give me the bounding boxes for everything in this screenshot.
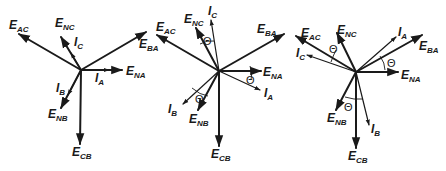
vector-i-b bbox=[68, 70, 81, 95]
label-e-nc: ENC bbox=[337, 23, 357, 39]
label-e-nc: ENC bbox=[55, 16, 75, 32]
label-e-na: ENA bbox=[126, 64, 146, 80]
theta-symbol-a: Θ bbox=[387, 57, 396, 69]
theta-arc-b bbox=[345, 97, 363, 99]
label-i-c: IC bbox=[74, 35, 83, 51]
label-i-a: IA bbox=[398, 25, 407, 41]
label-e-cb: ECB bbox=[211, 147, 231, 163]
label-e-ba: EBA bbox=[257, 22, 277, 38]
diagram-2: Θ Θ Θ EAC ENC IC EBA ENA IA IB ENB ECB bbox=[156, 4, 284, 163]
vector-e-ba bbox=[81, 32, 146, 70]
label-e-cb: ECB bbox=[348, 149, 368, 165]
theta-symbol-a: Θ bbox=[246, 74, 255, 86]
label-e-ac: EAC bbox=[156, 20, 176, 36]
vector-e-ba bbox=[219, 34, 284, 71]
diagram-1: EAC ENC IC EBA ENA IA IB ENB ECB bbox=[9, 16, 159, 161]
theta-symbol-c: Θ bbox=[203, 35, 212, 47]
label-i-c: IC bbox=[208, 4, 217, 20]
label-i-b: IB bbox=[56, 81, 65, 97]
label-e-nc: ENC bbox=[184, 12, 204, 28]
label-e-ba: EBA bbox=[139, 37, 159, 53]
label-e-nb: ENB bbox=[327, 111, 347, 127]
label-i-b: IB bbox=[168, 102, 177, 118]
diagram-3: Θ Θ Θ EAC ENC IC EBA ENA IA IB ENB ECB bbox=[296, 23, 439, 165]
label-e-ac: EAC bbox=[9, 18, 29, 34]
vector-e-cb bbox=[80, 70, 81, 144]
label-e-ac: EAC bbox=[301, 26, 321, 42]
label-e-na: ENA bbox=[263, 65, 283, 81]
theta-symbol-b: Θ bbox=[195, 93, 204, 105]
vector-e-ac bbox=[19, 34, 81, 70]
label-e-nb: ENB bbox=[189, 112, 209, 128]
theta-symbol-c: Θ bbox=[329, 43, 338, 55]
label-e-ba: EBA bbox=[419, 39, 439, 55]
label-e-nb: ENB bbox=[48, 107, 68, 123]
label-e-cb: ECB bbox=[72, 145, 92, 161]
phasor-diagrams: EAC ENC IC EBA ENA IA IB ENB ECB Θ Θ Θ E… bbox=[0, 0, 446, 171]
label-i-a: IA bbox=[95, 71, 104, 87]
label-i-a: IA bbox=[264, 86, 273, 102]
vector-i-b bbox=[356, 72, 369, 125]
label-i-b: IB bbox=[371, 122, 380, 138]
theta-symbol-b: Θ bbox=[344, 101, 353, 113]
label-e-na: ENA bbox=[401, 68, 421, 84]
label-i-c: IC bbox=[296, 46, 305, 62]
